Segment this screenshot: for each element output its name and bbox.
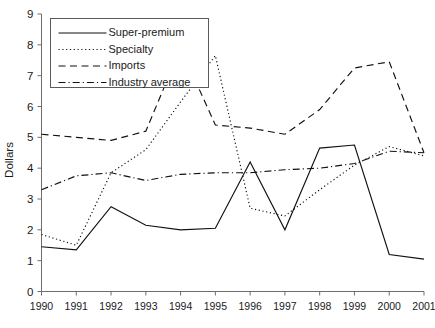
- y-tick-label: 2: [27, 224, 33, 236]
- y-tick-label: 6: [27, 101, 33, 113]
- x-tick-label: 1990: [30, 300, 54, 312]
- x-tick-label: 1998: [308, 300, 332, 312]
- legend-label: Super-premium: [109, 26, 185, 38]
- x-tick-label: 1993: [134, 300, 158, 312]
- x-tick-label: 1996: [238, 300, 262, 312]
- legend-label: Specialty: [109, 43, 154, 55]
- x-tick-label: 1997: [273, 300, 297, 312]
- y-tick-label: 9: [27, 8, 33, 20]
- x-tick-label: 1994: [169, 300, 193, 312]
- y-tick-label: 0: [27, 286, 33, 298]
- legend-label: Industry average: [109, 76, 191, 88]
- chart-legend: Super-premiumSpecialtyImportsIndustry av…: [51, 19, 209, 88]
- y-tick-label: 1: [27, 255, 33, 267]
- legend-label: Imports: [109, 59, 146, 71]
- x-tick-label: 1992: [99, 300, 123, 312]
- y-axis-title: Dollars: [3, 142, 15, 178]
- x-tick-label: 1991: [65, 300, 89, 312]
- series-line-super-premium: [42, 145, 425, 259]
- y-tick-label: 3: [27, 193, 33, 205]
- y-tick-label: 5: [27, 131, 33, 143]
- line-chart: 0123456789 19901991199219931994199519961…: [0, 0, 435, 328]
- y-tick-label: 4: [27, 162, 34, 174]
- y-tick-label: 8: [27, 39, 33, 51]
- x-tick-label: 2000: [378, 300, 402, 312]
- x-tick-label: 1999: [343, 300, 367, 312]
- x-axis-ticks: 1990199119921993199419951996199719981999…: [30, 292, 435, 312]
- x-tick-label: 2001: [412, 300, 435, 312]
- y-tick-label: 7: [27, 70, 33, 82]
- y-axis-ticks: 0123456789: [27, 8, 41, 298]
- chart-canvas: 0123456789 19901991199219931994199519961…: [0, 0, 435, 328]
- x-tick-label: 1995: [204, 300, 228, 312]
